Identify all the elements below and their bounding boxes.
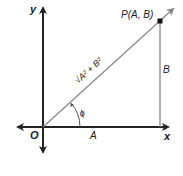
polar-coordinate-diagram: y x O P(A, B) A B ϕ √A² + B² [0, 0, 183, 176]
side-a-label: A [89, 130, 97, 141]
hypotenuse-label: √A² + B² [73, 55, 105, 85]
point-p [158, 19, 163, 24]
axis-x-label: x [163, 130, 171, 142]
angle-arc [71, 103, 80, 127]
point-label: P(A, B) [121, 9, 153, 20]
hypotenuse-vector [43, 9, 173, 127]
origin-label: O [30, 129, 39, 141]
axis-y-label: y [29, 3, 37, 15]
side-b-label: B [163, 64, 170, 75]
